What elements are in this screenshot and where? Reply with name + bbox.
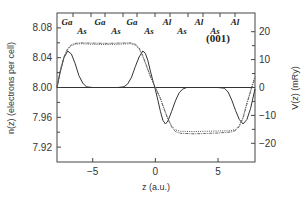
series-layer: [57, 43, 255, 134]
atom-label-as: As: [110, 26, 121, 36]
y2-tick-label: 10: [259, 54, 271, 65]
y-tick-label: 8.00: [33, 82, 53, 93]
atom-label-al: Al: [230, 17, 240, 27]
annotations: (001): [206, 32, 230, 45]
x-axis: −505: [87, 158, 221, 177]
y-tick-label: 7.96: [33, 112, 53, 123]
y-tick-label: 8.04: [33, 52, 53, 63]
x-tick-label: −5: [87, 166, 99, 177]
chart: GaAsGaAsGaAsAlAsAlAsAl −505 7.927.968.00…: [0, 0, 307, 197]
y2-tick-label: 0: [259, 82, 265, 93]
y2-tick-label: −10: [259, 110, 276, 121]
atom-label-as: As: [176, 26, 187, 36]
atom-label-al: Al: [194, 17, 204, 27]
atom-label-as: As: [143, 26, 154, 36]
atom-label-as: As: [76, 26, 87, 36]
annotation-orientation: (001): [206, 32, 230, 45]
atom-label-ga: Ga: [127, 17, 138, 27]
atom-label-ga: Ga: [95, 17, 106, 27]
series-v-z-dash-dot: [57, 43, 255, 134]
x-tick-label: 0: [153, 166, 159, 177]
y-axis-right-title: V(z) (mRy): [290, 66, 300, 110]
x-tick-label: 5: [215, 166, 221, 177]
x-axis-title: z (a.u.): [142, 182, 170, 192]
y-axis-left-title: n(z) (electrons per cell): [6, 42, 16, 134]
atom-label-ga: Ga: [62, 17, 73, 27]
y2-tick-label: −20: [259, 138, 276, 149]
y-tick-label: 8.08: [33, 22, 53, 33]
y-tick-label: 7.92: [33, 142, 53, 153]
atom-label-al: Al: [162, 17, 172, 27]
y2-tick-label: 20: [259, 26, 271, 37]
